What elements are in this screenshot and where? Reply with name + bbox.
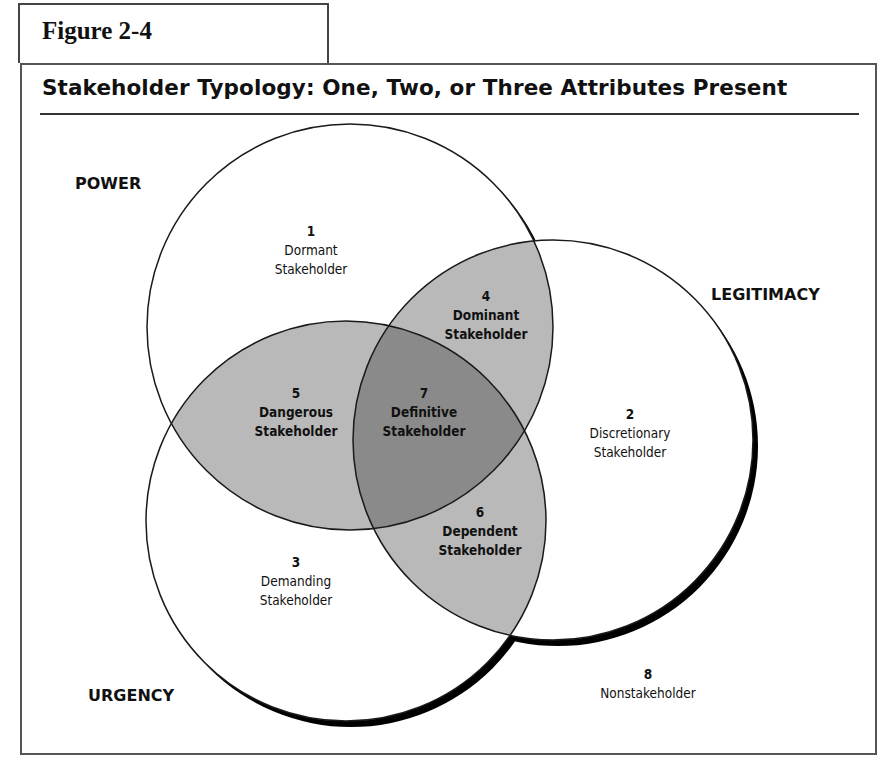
- region-label-nonstakeholder: 8 Nonstakeholder: [600, 665, 695, 703]
- region-label-discretionary: 2 Discretionary Stakeholder: [590, 405, 671, 462]
- region-label-dominant: 4 Dominant Stakeholder: [445, 287, 528, 344]
- region-label-dormant: 1 Dormant Stakeholder: [275, 222, 348, 279]
- set-label-urgency: URGENCY: [88, 686, 174, 705]
- set-label-power: POWER: [75, 174, 141, 193]
- region-label-definitive: 7 Definitive Stakeholder: [383, 384, 466, 441]
- region-label-dependent: 6 Dependent Stakeholder: [439, 503, 522, 560]
- region-label-demanding: 3 Demanding Stakeholder: [260, 553, 333, 610]
- set-label-legitimacy: LEGITIMACY: [711, 285, 820, 304]
- region-label-dangerous: 5 Dangerous Stakeholder: [255, 384, 338, 441]
- venn-diagram: [0, 0, 888, 765]
